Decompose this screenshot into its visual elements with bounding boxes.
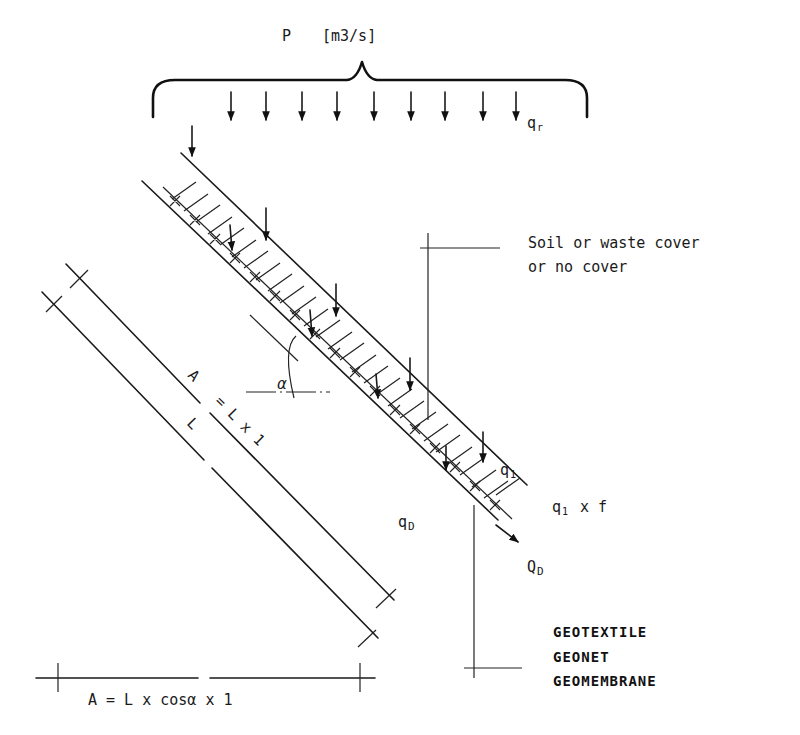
precipitation-brace [153,62,587,117]
dim-L-symbol: L [183,414,202,433]
rain-arrows [231,92,516,120]
rain-label-sub: r [537,122,543,133]
down-arrow-icon [310,310,312,336]
infiltration-sub: 1 [510,469,516,480]
cover-label-line2: or no cover [528,258,627,276]
geonet-crosshatch [170,196,500,510]
precip-symbol: P [282,27,291,45]
flow-labels: q 1 q 1 x f q D Q D [398,461,607,578]
drainage-rate-label: q [398,513,407,531]
outflow-arrow-icon [496,525,518,542]
dim-tick [70,270,88,288]
slope-section [142,126,527,542]
layer-geotextile: GEOTEXTILE [553,624,647,640]
drainage-rate-sub: D [408,520,415,533]
layer-geomembrane: GEOMEMBRANE [553,673,657,689]
layer-geonet: GEONET [553,649,610,665]
reduced-infiltration-label: q [552,498,561,516]
angle-symbol: α [277,375,287,393]
layers-callout: GEOTEXTILE GEONET GEOMEMBRANE [464,505,657,689]
inclined-dimensions: A = L x 1 L [42,264,396,647]
dim-A-symbol: A [184,366,203,385]
rain-label: q [527,114,536,132]
dim-tick [358,630,376,647]
precip-unit: [m3/s] [322,27,376,45]
down-arrow-icon [230,225,232,250]
horizontal-area-formula: A = L x cosα x 1 [88,691,233,709]
dim-A-eq: = L x 1 [211,392,268,449]
dim-L-line-upper [42,292,204,460]
precipitation-group: P [m3/s] q r [153,27,587,133]
dim-A-line-lower [210,413,394,600]
cover-hatching [172,182,520,498]
reduced-factor: x f [580,498,607,516]
slope-angle: α [246,315,330,398]
geomembrane-line [142,181,498,520]
cover-callout: Soil or waste cover or no cover [420,233,700,420]
angle-arc [288,336,296,398]
infiltration-label: q [500,461,509,479]
horizontal-dimension: A = L x cosα x 1 [36,663,375,709]
dim-A-line-upper [66,264,200,403]
drainage-flow-label: Q [527,558,536,576]
drainage-flow-sub: D [537,565,544,578]
dim-L-line-lower [212,468,378,638]
geonet-line [163,187,512,519]
reduced-infiltration-sub: 1 [562,506,568,517]
slope-drainage-diagram: P [m3/s] q r [0,0,800,735]
cover-label-line1: Soil or waste cover [528,234,700,252]
